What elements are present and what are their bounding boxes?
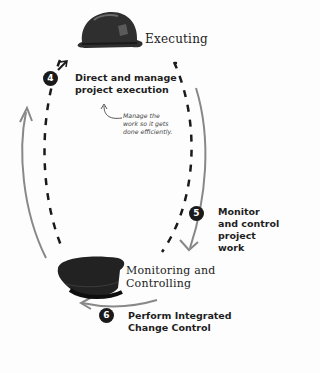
step-label-4: Direct and manage project execution xyxy=(75,72,177,96)
dashed-cycle-left xyxy=(45,60,63,248)
annotation-note: Manage the work so it gets done efficien… xyxy=(123,112,173,136)
arrow-up-left xyxy=(22,112,46,258)
hard-hat-icon xyxy=(78,12,143,48)
step-badge-6: 6 xyxy=(99,308,114,323)
arrow-left-bottom xyxy=(82,300,157,306)
step-badge-5: 5 xyxy=(189,206,204,221)
step-label-5: Monitor and control project work xyxy=(218,206,279,254)
step-label-6: Perform Integrated Change Control xyxy=(128,310,232,334)
arrow-down-right xyxy=(190,88,205,248)
phase-label-monitoring: Monitoring and Controlling xyxy=(126,264,215,290)
step-badge-4: 4 xyxy=(43,71,58,86)
police-cap-icon xyxy=(58,256,125,297)
phase-label-executing: Executing xyxy=(145,32,208,46)
